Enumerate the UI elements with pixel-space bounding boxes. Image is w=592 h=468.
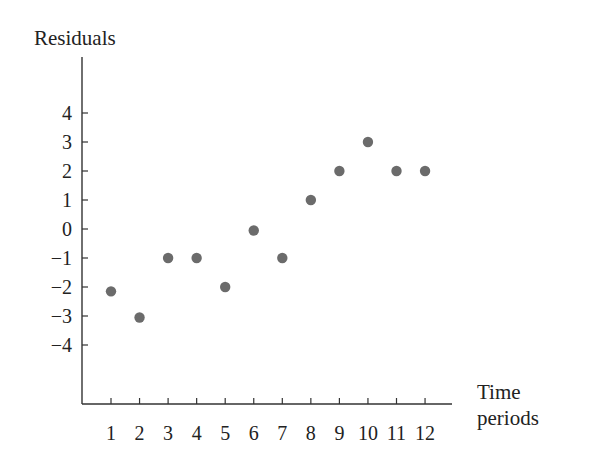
x-tick-label: 8 — [306, 422, 316, 444]
x-axis-ticks: 123456789101112 — [106, 398, 435, 444]
y-tick-label: −1 — [51, 247, 72, 269]
data-point — [134, 312, 144, 322]
y-tick-label: −2 — [51, 276, 72, 298]
x-axis-label-line-2: periods — [477, 406, 539, 430]
residual-scatter-chart: Residuals 43210−1−2−3−4 123456789101112 … — [0, 0, 592, 468]
y-tick-label: 2 — [62, 160, 72, 182]
x-tick-label: 1 — [106, 422, 116, 444]
data-point — [220, 282, 230, 292]
x-tick-label: 4 — [192, 422, 202, 444]
y-tick-label: −4 — [51, 334, 72, 356]
x-axis-label: Time periods — [477, 380, 539, 430]
x-tick-label: 9 — [334, 422, 344, 444]
x-tick-label: 3 — [163, 422, 173, 444]
y-tick-label: 0 — [62, 218, 72, 240]
y-tick-label: 3 — [62, 131, 72, 153]
data-point — [249, 225, 259, 235]
y-tick-label: 1 — [62, 189, 72, 211]
data-point — [106, 286, 116, 296]
x-tick-label: 11 — [387, 422, 406, 444]
data-point — [306, 195, 316, 205]
x-tick-label: 6 — [249, 422, 259, 444]
x-tick-label: 10 — [358, 422, 378, 444]
x-axis-label-line-1: Time — [477, 380, 521, 404]
x-tick-label: 5 — [220, 422, 230, 444]
data-point — [277, 253, 287, 263]
y-axis-label: Residuals — [34, 26, 116, 50]
data-point — [191, 253, 201, 263]
y-tick-label: 4 — [62, 102, 72, 124]
data-point — [391, 166, 401, 176]
data-point — [420, 166, 430, 176]
data-points — [106, 137, 430, 323]
x-tick-label: 12 — [415, 422, 435, 444]
axes — [82, 57, 452, 404]
data-point — [163, 253, 173, 263]
x-tick-label: 2 — [135, 422, 145, 444]
data-point — [334, 166, 344, 176]
x-tick-label: 7 — [277, 422, 287, 444]
y-tick-label: −3 — [51, 305, 72, 327]
data-point — [363, 137, 373, 147]
